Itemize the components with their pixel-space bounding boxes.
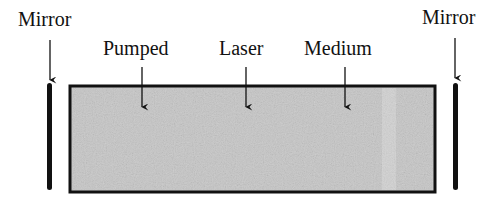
- gain-medium: [70, 86, 435, 192]
- right-mirror: [453, 83, 458, 190]
- medium-label: Medium: [304, 37, 372, 59]
- laser-cavity-diagram: [0, 0, 502, 207]
- left-mirror-label: Mirror: [18, 8, 71, 30]
- pumped-label: Pumped: [103, 37, 169, 59]
- right-mirror-label: Mirror: [422, 6, 475, 28]
- left-mirror: [47, 83, 52, 190]
- laser-label: Laser: [219, 37, 263, 59]
